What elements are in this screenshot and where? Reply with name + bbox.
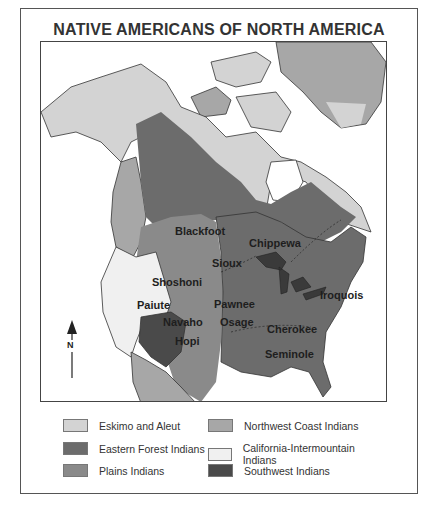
legend-label: Eastern Forest Indians bbox=[99, 443, 205, 455]
legend-label: California-Intermountain Indians bbox=[243, 442, 383, 466]
legend-item-eskimo-aleut: Eskimo and Aleut bbox=[63, 419, 180, 432]
map-title: NATIVE AMERICANS OF NORTH AMERICA bbox=[21, 21, 417, 39]
north-arrow-icon bbox=[65, 320, 79, 380]
label-pawnee: Pawnee bbox=[214, 298, 255, 310]
legend-item-california-intermountain: California-Intermountain Indians bbox=[208, 442, 383, 466]
legend-swatch bbox=[63, 442, 88, 455]
legend-label: Plains Indians bbox=[99, 465, 164, 477]
label-blackfoot: Blackfoot bbox=[175, 225, 225, 237]
label-shoshoni: Shoshoni bbox=[152, 276, 202, 288]
label-iroquois: Iroquois bbox=[320, 289, 363, 301]
label-navaho: Navaho bbox=[163, 316, 203, 328]
legend-item-eastern-forest: Eastern Forest Indians bbox=[63, 442, 205, 455]
legend-swatch bbox=[63, 464, 88, 477]
legend-label: Eskimo and Aleut bbox=[99, 420, 180, 432]
label-osage: Osage bbox=[220, 316, 254, 328]
legend-item-northwest-coast: Northwest Coast Indians bbox=[208, 419, 358, 432]
label-cherokee: Cherokee bbox=[267, 323, 317, 335]
label-seminole: Seminole bbox=[265, 348, 314, 360]
legend-swatch bbox=[208, 448, 232, 461]
map-area bbox=[40, 41, 387, 402]
label-sioux: Sioux bbox=[212, 257, 242, 269]
legend-item-southwest: Southwest Indians bbox=[208, 464, 330, 477]
legend-swatch bbox=[208, 419, 233, 432]
north-arrow: N bbox=[65, 320, 79, 380]
label-hopi: Hopi bbox=[175, 335, 199, 347]
legend-swatch bbox=[63, 419, 88, 432]
label-paiute: Paiute bbox=[137, 299, 170, 311]
legend-label: Southwest Indians bbox=[244, 465, 330, 477]
region-greenland bbox=[276, 42, 386, 128]
north-label: N bbox=[67, 340, 74, 350]
north-america-map bbox=[41, 42, 387, 402]
legend-label: Northwest Coast Indians bbox=[244, 420, 358, 432]
label-chippewa: Chippewa bbox=[249, 237, 301, 249]
legend-item-plains: Plains Indians bbox=[63, 464, 164, 477]
legend-swatch bbox=[208, 464, 233, 477]
